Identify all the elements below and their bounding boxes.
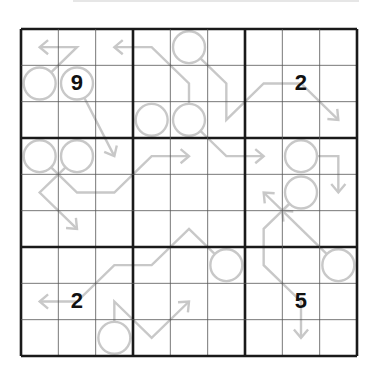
sudoku-cell[interactable] <box>133 138 170 174</box>
sudoku-cell[interactable] <box>245 174 282 210</box>
sudoku-cell[interactable] <box>170 211 207 247</box>
sudoku-cell[interactable] <box>21 320 58 356</box>
sudoku-cell[interactable] <box>208 65 245 101</box>
sudoku-cell[interactable] <box>96 138 133 174</box>
top-divider <box>73 0 359 2</box>
sudoku-cell[interactable] <box>133 174 170 210</box>
sudoku-cell[interactable]: 9 <box>58 65 95 101</box>
sudoku-cell[interactable] <box>282 29 319 65</box>
sudoku-cell[interactable] <box>133 211 170 247</box>
sudoku-cell[interactable] <box>208 247 245 283</box>
sudoku-cell[interactable] <box>208 320 245 356</box>
sudoku-cell[interactable] <box>96 283 133 319</box>
sudoku-cell[interactable] <box>170 29 207 65</box>
sudoku-cell[interactable] <box>320 102 357 138</box>
sudoku-cell[interactable] <box>208 102 245 138</box>
sudoku-cell[interactable] <box>170 247 207 283</box>
sudoku-cell[interactable] <box>96 174 133 210</box>
sudoku-cell[interactable] <box>245 247 282 283</box>
cell-grid: 9225 <box>21 29 357 356</box>
sudoku-cell[interactable] <box>245 283 282 319</box>
sudoku-cell[interactable] <box>245 102 282 138</box>
sudoku-cell[interactable] <box>133 29 170 65</box>
sudoku-cell[interactable] <box>96 320 133 356</box>
sudoku-cell[interactable] <box>21 247 58 283</box>
sudoku-cell[interactable] <box>133 65 170 101</box>
sudoku-cell[interactable] <box>58 29 95 65</box>
sudoku-cell[interactable] <box>208 174 245 210</box>
sudoku-cell[interactable] <box>282 174 319 210</box>
sudoku-cell[interactable] <box>320 283 357 319</box>
sudoku-cell[interactable] <box>21 283 58 319</box>
sudoku-cell[interactable] <box>245 138 282 174</box>
sudoku-cell[interactable] <box>245 320 282 356</box>
sudoku-cell[interactable] <box>208 211 245 247</box>
sudoku-cell[interactable] <box>282 247 319 283</box>
sudoku-cell[interactable] <box>282 211 319 247</box>
sudoku-cell[interactable] <box>21 102 58 138</box>
sudoku-cell[interactable]: 5 <box>282 283 319 319</box>
sudoku-cell[interactable] <box>170 65 207 101</box>
sudoku-cell[interactable] <box>320 211 357 247</box>
sudoku-cell[interactable] <box>58 211 95 247</box>
sudoku-cell[interactable] <box>320 29 357 65</box>
sudoku-cell[interactable] <box>170 283 207 319</box>
sudoku-cell[interactable] <box>245 29 282 65</box>
sudoku-cell[interactable] <box>21 29 58 65</box>
sudoku-cell[interactable] <box>320 174 357 210</box>
sudoku-cell[interactable] <box>320 65 357 101</box>
sudoku-cell[interactable] <box>133 247 170 283</box>
sudoku-cell[interactable] <box>320 247 357 283</box>
given-digit: 5 <box>295 288 307 314</box>
sudoku-cell[interactable] <box>58 174 95 210</box>
sudoku-cell[interactable] <box>170 138 207 174</box>
sudoku-cell[interactable] <box>58 138 95 174</box>
sudoku-cell[interactable] <box>133 283 170 319</box>
sudoku-cell[interactable] <box>320 320 357 356</box>
sudoku-cell[interactable] <box>208 138 245 174</box>
sudoku-board: 9225 <box>21 29 357 356</box>
sudoku-cell[interactable] <box>96 211 133 247</box>
sudoku-cell[interactable] <box>133 320 170 356</box>
sudoku-cell[interactable] <box>320 138 357 174</box>
sudoku-cell[interactable] <box>21 211 58 247</box>
sudoku-cell[interactable] <box>58 320 95 356</box>
sudoku-cell[interactable] <box>208 29 245 65</box>
sudoku-cell[interactable] <box>96 102 133 138</box>
sudoku-cell[interactable] <box>21 174 58 210</box>
sudoku-cell[interactable] <box>245 65 282 101</box>
sudoku-cell[interactable]: 2 <box>282 65 319 101</box>
sudoku-cell[interactable] <box>170 174 207 210</box>
sudoku-cell[interactable] <box>21 65 58 101</box>
sudoku-cell[interactable] <box>96 65 133 101</box>
sudoku-cell[interactable] <box>21 138 58 174</box>
sudoku-cell[interactable]: 2 <box>58 283 95 319</box>
sudoku-cell[interactable] <box>58 102 95 138</box>
sudoku-cell[interactable] <box>245 211 282 247</box>
sudoku-cell[interactable] <box>96 247 133 283</box>
sudoku-cell[interactable] <box>170 320 207 356</box>
sudoku-cell[interactable] <box>282 138 319 174</box>
given-digit: 2 <box>295 70 307 96</box>
sudoku-cell[interactable] <box>58 247 95 283</box>
given-digit: 9 <box>71 70 83 96</box>
sudoku-cell[interactable] <box>170 102 207 138</box>
sudoku-cell[interactable] <box>96 29 133 65</box>
sudoku-cell[interactable] <box>133 102 170 138</box>
sudoku-cell[interactable] <box>282 320 319 356</box>
given-digit: 2 <box>71 288 83 314</box>
sudoku-cell[interactable] <box>208 283 245 319</box>
sudoku-cell[interactable] <box>282 102 319 138</box>
